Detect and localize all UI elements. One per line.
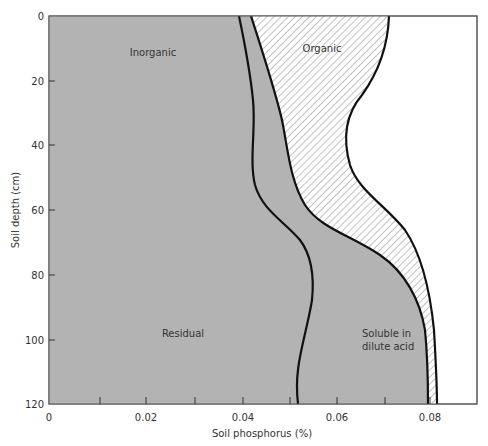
y-tick-80: 80 [31, 270, 44, 281]
soil-phosphorus-chart: 0 20 40 60 80 100 120 0 0.02 0.04 0.06 0… [0, 0, 488, 446]
inorganic-label: Inorganic [130, 47, 176, 58]
x-axis-title: Soil phosphorus (%) [212, 428, 312, 439]
organic-label: Organic [303, 43, 342, 54]
x-tick-0: 0 [46, 412, 52, 423]
soluble-label-line1: Soluble in [362, 328, 411, 339]
x-tick-006: 0.06 [326, 412, 348, 423]
x-tick-008: 0.08 [419, 412, 441, 423]
soluble-label-line2: dilute acid [362, 341, 414, 352]
y-tick-60: 60 [31, 205, 44, 216]
x-tick-004: 0.04 [232, 412, 254, 423]
x-tick-002: 0.02 [135, 412, 157, 423]
y-tick-0: 0 [38, 11, 44, 22]
residual-label: Residual [162, 328, 204, 339]
y-axis-title: Soil depth (cm) [10, 172, 21, 249]
y-tick-40: 40 [31, 140, 44, 151]
y-tick-20: 20 [31, 76, 44, 87]
y-tick-100: 100 [25, 335, 44, 346]
y-tick-120: 120 [25, 399, 44, 410]
